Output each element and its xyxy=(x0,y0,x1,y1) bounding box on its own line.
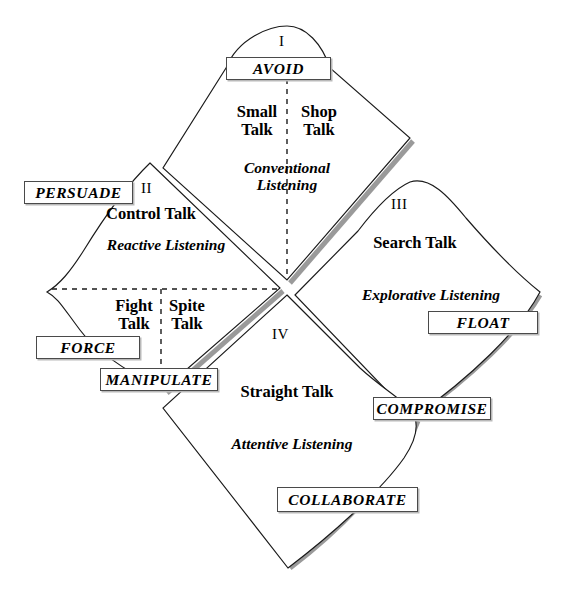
quadrant-1-listening: Conventional Listening xyxy=(222,159,352,194)
label-float[interactable]: FLOAT xyxy=(428,311,538,334)
label-collaborate[interactable]: COLLABORATE xyxy=(277,487,418,512)
label-force[interactable]: FORCE xyxy=(36,336,140,359)
talk-line: Fight xyxy=(115,296,153,315)
quadrant-1-talk-right: Shop Talk xyxy=(293,103,345,140)
label-avoid[interactable]: AVOID xyxy=(226,57,331,80)
talk-line: Small xyxy=(237,102,277,121)
quadrant-2-talk-left: Fight Talk xyxy=(110,297,158,334)
quadrant-2-numeral: II xyxy=(141,180,152,197)
quadrant-3-numeral: III xyxy=(391,196,408,213)
diamond-outlines xyxy=(0,0,562,607)
quadrant-2-talk-right: Spite Talk xyxy=(165,297,209,334)
quadrant-4-numeral: IV xyxy=(272,326,289,343)
label-manipulate[interactable]: MANIPULATE xyxy=(100,368,218,391)
quadrant-2-listening: Reactive Listening xyxy=(86,236,246,253)
quadrant-2-talk-top: Control Talk xyxy=(95,205,207,223)
talk-line: Talk xyxy=(118,314,150,333)
quadrant-3-talk: Search Talk xyxy=(363,234,467,252)
listening-line: Listening xyxy=(257,176,317,193)
label-compromise[interactable]: COMPROMISE xyxy=(373,397,491,420)
listening-line: Conventional xyxy=(244,159,330,176)
quadrant-1-talk-left: Small Talk xyxy=(230,103,284,140)
quadrant-4-listening: Attentive Listening xyxy=(218,435,366,452)
talk-line: Spite xyxy=(169,296,205,315)
talk-line: Talk xyxy=(303,120,335,139)
talk-line: Talk xyxy=(241,120,273,139)
talk-line: Talk xyxy=(171,314,203,333)
quadrant-1-numeral: I xyxy=(279,33,285,50)
label-persuade[interactable]: PERSUADE xyxy=(24,181,133,204)
talk-line: Shop xyxy=(301,102,337,121)
diagram-canvas: I AVOID Small Talk Shop Talk Conventiona… xyxy=(0,0,562,607)
quadrant-4-talk: Straight Talk xyxy=(232,383,342,401)
quadrant-3-listening: Explorative Listening xyxy=(337,286,525,303)
